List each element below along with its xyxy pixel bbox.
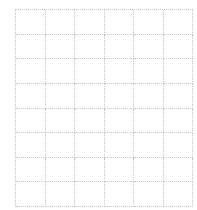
grid-cell[interactable] bbox=[16, 84, 46, 109]
grid-cell[interactable] bbox=[105, 182, 135, 207]
grid-cell[interactable] bbox=[134, 35, 164, 60]
grid-cell[interactable] bbox=[164, 35, 194, 60]
grid-cell[interactable] bbox=[75, 109, 105, 134]
grid-cell[interactable] bbox=[46, 109, 76, 134]
grid-cell[interactable] bbox=[105, 133, 135, 158]
grid-cell[interactable] bbox=[105, 158, 135, 183]
grid-cell[interactable] bbox=[164, 109, 194, 134]
grid-cell[interactable] bbox=[16, 182, 46, 207]
grid-cell[interactable] bbox=[105, 59, 135, 84]
grid-cell[interactable] bbox=[16, 109, 46, 134]
grid-cell[interactable] bbox=[164, 182, 194, 207]
grid-cell[interactable] bbox=[134, 10, 164, 35]
grid-cell[interactable] bbox=[46, 84, 76, 109]
grid-cell[interactable] bbox=[16, 59, 46, 84]
empty-grid bbox=[15, 9, 193, 207]
grid-cell[interactable] bbox=[75, 59, 105, 84]
grid-cell[interactable] bbox=[75, 182, 105, 207]
grid-cell[interactable] bbox=[105, 84, 135, 109]
grid-cell[interactable] bbox=[164, 84, 194, 109]
grid-cell[interactable] bbox=[105, 10, 135, 35]
grid-cell[interactable] bbox=[16, 158, 46, 183]
grid-cell[interactable] bbox=[75, 35, 105, 60]
grid-cell[interactable] bbox=[105, 109, 135, 134]
grid-cell[interactable] bbox=[105, 35, 135, 60]
grid-cell[interactable] bbox=[46, 182, 76, 207]
grid-cell[interactable] bbox=[134, 133, 164, 158]
grid-cell[interactable] bbox=[16, 35, 46, 60]
grid-cell[interactable] bbox=[75, 158, 105, 183]
grid-cell[interactable] bbox=[46, 133, 76, 158]
grid-cell[interactable] bbox=[46, 158, 76, 183]
grid-cell[interactable] bbox=[75, 84, 105, 109]
grid-cell[interactable] bbox=[16, 133, 46, 158]
grid-cell[interactable] bbox=[75, 10, 105, 35]
grid-cell[interactable] bbox=[164, 158, 194, 183]
grid-cell[interactable] bbox=[16, 10, 46, 35]
grid-cell[interactable] bbox=[75, 133, 105, 158]
grid-cell[interactable] bbox=[134, 84, 164, 109]
grid-cell[interactable] bbox=[164, 10, 194, 35]
grid-cell[interactable] bbox=[134, 59, 164, 84]
grid-cell[interactable] bbox=[134, 182, 164, 207]
canvas bbox=[0, 0, 197, 210]
grid-cell[interactable] bbox=[134, 109, 164, 134]
grid-cell[interactable] bbox=[164, 59, 194, 84]
grid-cell[interactable] bbox=[46, 35, 76, 60]
grid-cell[interactable] bbox=[46, 59, 76, 84]
grid-cell[interactable] bbox=[164, 133, 194, 158]
grid-cell[interactable] bbox=[46, 10, 76, 35]
grid-cell[interactable] bbox=[134, 158, 164, 183]
